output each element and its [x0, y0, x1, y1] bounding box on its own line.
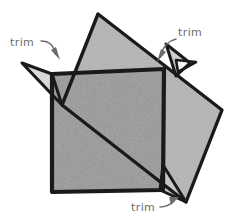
diagram-canvas: trimtrimtrim: [0, 0, 235, 221]
trim-label-left-text: trim: [10, 36, 34, 49]
trim-label-bottom-text: trim: [131, 201, 155, 214]
trim-label-top-right-text: trim: [178, 26, 202, 39]
trim-diagram-svg: trimtrimtrim: [0, 0, 235, 221]
